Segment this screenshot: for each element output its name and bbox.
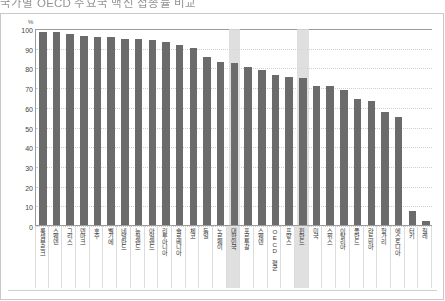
y-axis-tick-label: 60 [25,105,33,112]
x-axis-tick-label: 리투아니아 [161,228,168,255]
x-axis-tick-label: 이탈리아 [339,228,346,250]
x-axis-tick-label: OECD 평균 [271,228,278,271]
bar[interactable] [395,117,403,225]
bar[interactable] [53,32,61,225]
bar[interactable] [121,39,129,225]
x-axis-tick-label: 룩셈부르크 [39,228,46,255]
bar[interactable] [258,70,266,225]
bottom-rule [8,290,437,291]
x-axis-tick: 뉴질랜드 [131,226,145,288]
y-axis-tick-label: 30 [25,164,33,171]
x-axis-tick-label: 뉴질랜드 [134,228,141,250]
x-axis-tick-label: 호주 [93,228,100,239]
x-axis-tick-label: 라트비아 [367,228,374,250]
x-axis-tick: 아일랜드 [145,226,159,288]
x-axis-tick-label: 슬로베니아 [175,228,182,255]
x-axis-tick-label: 폴란드 [353,228,360,244]
bar[interactable] [39,32,47,225]
bar[interactable] [354,99,362,225]
chart-title: 국가별 OECD 주요국 백신 접종률 비교 [0,0,445,11]
x-axis-tick: 미국 [309,226,323,288]
bar[interactable] [217,62,225,226]
bar[interactable] [340,90,348,225]
x-axis-tick: OECD 평균 [268,226,282,288]
y-axis-tick-label: 10 [25,204,33,211]
x-axis-tick-label: 칠레 [421,228,428,239]
x-axis-tick: 스위스 [322,226,336,288]
y-axis-tick-label: 50 [25,125,33,132]
x-axis-tick: 덴마크 [76,226,90,288]
x-axis-tick: 이탈리아 [336,226,350,288]
x-axis-tick: 벨기에 [103,226,117,288]
bar[interactable] [244,67,252,225]
x-axis-tick-label: 에스토니아 [394,228,401,255]
bar[interactable] [299,78,307,225]
y-axis-unit-label: % [28,19,33,25]
x-axis-tick-label: 대한민국 [230,228,237,250]
x-axis-tick-label: 네덜란드 [120,228,127,250]
x-axis-tick: 핀란드 [295,226,309,288]
x-axis-tick-label: 그리스 [65,228,72,244]
y-axis-tick-label: 100 [21,27,33,34]
bar[interactable] [231,63,239,225]
bar[interactable] [190,48,198,225]
x-axis-tick-label: 노르웨이 [216,228,223,250]
y-axis-tick-label: 20 [25,184,33,191]
x-axis-tick: 독일 [199,226,213,288]
bar[interactable] [94,37,102,225]
y-axis-tick-label: 80 [25,66,33,73]
y-axis-tick-label: 70 [25,86,33,93]
x-axis-tick: 대한민국 [227,226,241,288]
bar[interactable] [176,45,184,225]
bar[interactable] [203,57,211,225]
x-axis-tick: 스웨덴 [49,226,63,288]
x-axis-tick-label: 체코 [189,228,196,239]
bar[interactable] [313,86,321,225]
x-axis-tick: 네덜란드 [117,226,131,288]
x-axis-tick-label: 스웨덴 [52,228,59,244]
x-axis-tick: 리투아니아 [158,226,172,288]
x-axis-tick: 룩셈부르크 [35,226,49,288]
x-axis-tick: 폴란드 [350,226,364,288]
bar[interactable] [409,211,417,225]
bar[interactable] [66,34,74,225]
y-axis-tick-label: 90 [25,46,33,53]
bar[interactable] [107,37,115,225]
y-axis-tick-label: 0 [29,224,33,231]
bar[interactable] [80,36,88,225]
title-bar: 국가별 OECD 주요국 백신 접종률 비교 [0,0,445,11]
x-axis-tick: 에스토니아 [391,226,405,288]
x-axis-tick-label: 핀란드 [298,228,305,244]
bar[interactable] [285,77,293,225]
x-axis-tick: 그리스 [62,226,76,288]
x-axis-tick-label: 포르투갈 [243,228,250,250]
bar[interactable] [326,86,334,225]
bar[interactable] [381,112,389,225]
y-axis-tick-label: 40 [25,145,33,152]
x-axis-tick: 칠레 [418,226,432,288]
bar[interactable] [368,101,376,225]
x-axis-tick: 포르투갈 [240,226,254,288]
x-axis-tick-label: 벨기에 [106,228,113,244]
plot-area: 1009080706050403020100 [35,29,432,226]
x-axis-tick: 호주 [90,226,104,288]
bar[interactable] [422,221,430,225]
x-axis-tick-label: 스위스 [326,228,333,244]
bar[interactable] [272,75,280,225]
x-axis-tick: 노르웨이 [213,226,227,288]
x-axis-tick: 체코 [186,226,200,288]
bar[interactable] [149,40,157,225]
bar-series [36,29,432,225]
x-axis-labels: 룩셈부르크스웨덴그리스덴마크호주벨기에네덜란드뉴질랜드아일랜드리투아니아슬로베니… [35,226,432,288]
x-axis-tick-label: 헝가리 [380,228,387,244]
bar[interactable] [162,42,170,225]
x-axis-tick-label: 독일 [202,228,209,239]
x-axis-tick: 터키 [405,226,419,288]
x-axis-tick: 스웨덴 [254,226,268,288]
bar[interactable] [135,39,143,225]
x-axis-tick: 라트비아 [364,226,378,288]
x-axis-tick-label: 프랑스 [284,228,291,244]
x-axis-tick-label: 터키 [408,228,415,239]
x-axis-tick: 프랑스 [281,226,295,288]
x-axis-tick: 슬로베니아 [172,226,186,288]
